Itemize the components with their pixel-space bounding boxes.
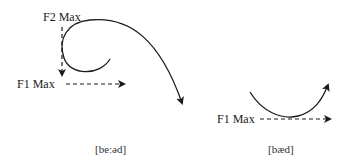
word-caption-right: [bæd] (268, 144, 294, 155)
word-caption-left: [beːəd] (95, 144, 126, 155)
f1-max-label: F1 Max (17, 78, 55, 90)
left-diagram (62, 20, 182, 103)
formant-trajectory-curve (62, 20, 182, 103)
f2-max-label: F2 Max (43, 11, 81, 23)
formant-trajectory-curve (250, 85, 328, 117)
right-diagram (250, 85, 330, 119)
f1-max-label: F1 Max (217, 113, 255, 125)
